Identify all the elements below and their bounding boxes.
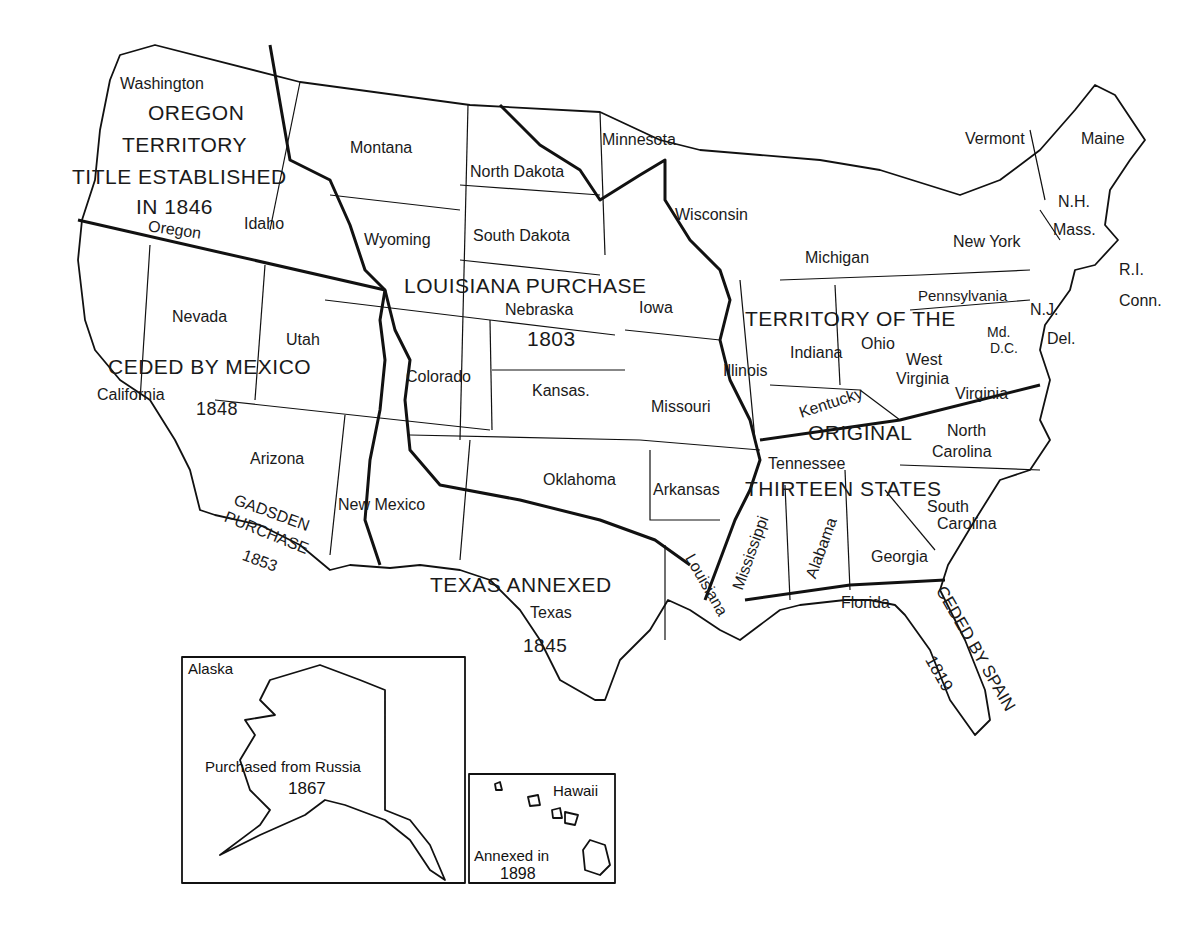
- state-label-carolina-s: Carolina: [937, 516, 997, 532]
- state-label-wyoming: Wyoming: [364, 232, 431, 248]
- continental-divide: [365, 290, 385, 565]
- state-label-michigan: Michigan: [805, 250, 869, 266]
- region-label-original-2: ORIGINAL: [808, 422, 912, 443]
- state-label-colorado: Colorado: [406, 369, 471, 385]
- state-label-texas: Texas: [530, 605, 572, 621]
- region-label-original-1: TERRITORY OF THE: [745, 308, 956, 329]
- state-label-virginia-w: Virginia: [896, 371, 949, 387]
- state-label-south-dakota: South Dakota: [473, 228, 570, 244]
- alaska-note: Purchased from Russia: [205, 759, 361, 774]
- region-label-oregon-4: IN 1846: [136, 196, 213, 217]
- state-label-georgia: Georgia: [871, 549, 928, 565]
- state-label-north-dakota: North Dakota: [470, 164, 564, 180]
- state-label-iowa: Iowa: [639, 300, 673, 316]
- alaska-year: 1867: [288, 780, 326, 797]
- state-label-mass: Mass.: [1053, 222, 1096, 238]
- state-label-south: South: [927, 499, 969, 515]
- state-label-nebraska: Nebraska: [505, 302, 573, 318]
- state-label-arizona: Arizona: [250, 451, 304, 467]
- state-label-oklahoma: Oklahoma: [543, 472, 616, 488]
- region-label-texas-year: 1845: [523, 636, 567, 655]
- hawaii-year: 1898: [500, 866, 536, 882]
- state-label-montana: Montana: [350, 140, 412, 156]
- state-label-ohio: Ohio: [861, 336, 895, 352]
- state-label-nevada: Nevada: [172, 309, 227, 325]
- state-label-ri: R.I.: [1119, 262, 1144, 278]
- region-label-texas: TEXAS ANNEXED: [430, 574, 612, 595]
- oregon-territory-boundary: [78, 220, 385, 290]
- state-label-missouri: Missouri: [651, 399, 711, 415]
- region-label-louisiana: LOUISIANA PURCHASE: [404, 275, 646, 296]
- region-label-original-3: THIRTEEN STATES: [745, 478, 942, 499]
- state-label-del: Del.: [1047, 331, 1075, 347]
- state-label-idaho: Idaho: [244, 216, 284, 232]
- region-label-mexico-year: 1848: [196, 400, 238, 418]
- state-label-tennessee: Tennessee: [768, 456, 845, 472]
- state-label-minnesota: Minnesota: [602, 132, 676, 148]
- state-label-florida: Florida: [841, 595, 890, 611]
- state-label-indiana: Indiana: [790, 345, 843, 361]
- state-label-washington: Washington: [120, 76, 204, 92]
- state-label-wisconsin: Wisconsin: [675, 207, 748, 223]
- state-label-pennsylvania: Pennsylvania: [918, 288, 1007, 303]
- state-label-conn: Conn.: [1119, 293, 1162, 309]
- state-label-dc: D.C.: [990, 341, 1018, 355]
- state-label-md: Md.: [987, 325, 1010, 339]
- louisiana-west-boundary: [270, 45, 690, 565]
- state-label-nj: N.J.: [1030, 302, 1058, 318]
- state-label-utah: Utah: [286, 332, 320, 348]
- state-label-new-york: New York: [953, 234, 1021, 250]
- state-label-virginia: Virginia: [955, 386, 1008, 402]
- hawaii-note: Annexed in: [474, 848, 549, 863]
- region-label-oregon-1: OREGON: [148, 102, 244, 123]
- hawaii-title: Hawaii: [553, 783, 598, 798]
- hawaii-big-island: [583, 840, 610, 875]
- state-label-nh: N.H.: [1058, 194, 1090, 210]
- region-label-oregon-3: TITLE ESTABLISHED: [72, 166, 287, 187]
- state-label-maine: Maine: [1081, 131, 1125, 147]
- state-label-north: North: [947, 423, 986, 439]
- state-label-new-mexico: New Mexico: [338, 497, 425, 513]
- state-label-vermont: Vermont: [965, 131, 1025, 147]
- state-label-arkansas: Arkansas: [653, 482, 720, 498]
- state-label-carolina-n: Carolina: [932, 444, 992, 460]
- region-label-louisiana-year: 1803: [527, 328, 576, 349]
- state-label-kansas: Kansas.: [532, 383, 590, 399]
- state-label-illinois: Illinois: [723, 363, 767, 379]
- region-label-oregon-2: TERRITORY: [122, 134, 247, 155]
- state-label-california: California: [97, 387, 165, 403]
- alaska-title: Alaska: [188, 661, 233, 676]
- state-label-west: West: [906, 352, 942, 368]
- region-label-mexico: CEDED BY MEXICO: [108, 356, 311, 377]
